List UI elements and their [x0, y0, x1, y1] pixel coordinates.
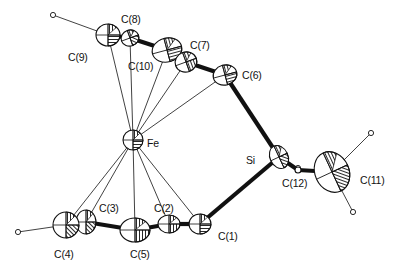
atom-c11	[308, 146, 357, 198]
label-c2: C(2)	[154, 203, 174, 214]
label-c5: C(5)	[130, 249, 150, 260]
fe-contact-c7	[133, 62, 186, 140]
label-c9: C(9)	[68, 52, 88, 63]
hydrogen-atom	[50, 12, 55, 17]
hydrogen-atom	[15, 229, 20, 234]
label-c7: C(7)	[190, 40, 210, 51]
atom-c1	[189, 214, 211, 234]
label-c3: C(3)	[99, 203, 119, 214]
hydrogen-atom	[350, 209, 355, 214]
label-c11: C(11)	[360, 175, 384, 186]
hydrogen-atom	[368, 130, 373, 135]
bonds	[66, 35, 332, 230]
molecular-structure-diagram: C(8)C(9)C(10)C(7)C(6)FeSiC(12)C(11)C(1)C…	[0, 0, 395, 273]
atom-c9	[96, 24, 120, 46]
atom-c6	[211, 62, 239, 88]
atom-fe	[123, 130, 143, 150]
fe-contact-c6	[133, 75, 225, 140]
atom-c4	[53, 212, 79, 238]
atom-c2	[158, 215, 180, 233]
label-c12: C(12)	[282, 178, 307, 189]
label-c4: C(4)	[54, 249, 74, 260]
label-si: Si	[246, 155, 255, 166]
atom-c12	[295, 167, 301, 173]
label-c6: C(6)	[242, 70, 262, 81]
label-c1: C(1)	[218, 231, 238, 242]
bond-si-c1	[200, 157, 279, 224]
fe-contact-c9	[108, 35, 133, 140]
label-c10: C(10)	[128, 61, 153, 72]
fe-contact-c8	[130, 38, 133, 140]
label-c8: C(8)	[121, 14, 141, 25]
atom-c8	[119, 27, 141, 48]
label-fe: Fe	[147, 138, 159, 149]
fe-contact-c5	[133, 140, 135, 230]
atom-c5	[120, 218, 150, 242]
bond-c6-si	[225, 75, 279, 157]
